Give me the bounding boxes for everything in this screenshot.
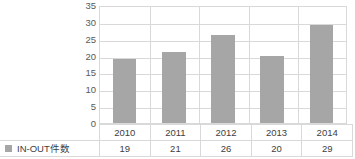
y-axis-tick-label: 25 bbox=[66, 35, 96, 45]
bar bbox=[113, 59, 137, 123]
legend: IN-OUT件数 bbox=[0, 141, 100, 157]
bar bbox=[310, 25, 334, 123]
bar bbox=[162, 52, 186, 123]
table-header-cell: 2010 bbox=[100, 125, 151, 141]
table-header-cell: 2011 bbox=[150, 125, 201, 141]
table-value-cell: 29 bbox=[302, 141, 353, 157]
y-axis-tick-label: 5 bbox=[66, 102, 96, 112]
table-value-cell: 20 bbox=[251, 141, 302, 157]
y-axis-tick-label: 35 bbox=[66, 1, 96, 11]
table-value-cell: 26 bbox=[201, 141, 252, 157]
y-axis-tick-label: 30 bbox=[66, 18, 96, 28]
table-header-cell: 2012 bbox=[201, 125, 252, 141]
table-header-cell: 2014 bbox=[302, 125, 353, 141]
bar-slot bbox=[198, 7, 247, 123]
y-axis-tick-label: 20 bbox=[66, 52, 96, 62]
y-axis: 05101520253035 bbox=[66, 6, 96, 124]
bar-slot bbox=[100, 7, 149, 123]
y-axis-tick-label: 10 bbox=[66, 86, 96, 96]
bar-slot bbox=[297, 7, 346, 123]
y-axis-tick-label: 15 bbox=[66, 69, 96, 79]
plot-area bbox=[99, 6, 347, 124]
table-row-values: IN-OUT件数1921262029 bbox=[0, 141, 352, 157]
table-row-header: 20102011201220132014 bbox=[0, 125, 352, 141]
legend-swatch-icon bbox=[5, 145, 12, 152]
bar-series bbox=[100, 7, 346, 123]
legend-label: IN-OUT件数 bbox=[17, 144, 70, 154]
bar-chart: 05101520253035 bbox=[0, 0, 355, 131]
bar bbox=[260, 56, 284, 123]
table-corner-blank bbox=[0, 125, 100, 141]
table-value-cell: 19 bbox=[100, 141, 151, 157]
bar-slot bbox=[248, 7, 297, 123]
table-value-cell: 21 bbox=[150, 141, 201, 157]
data-table: 20102011201220132014 IN-OUT件数1921262029 bbox=[0, 124, 353, 157]
chart-screenshot: 05101520253035 20102011201220132014 IN-O… bbox=[0, 0, 355, 159]
bar-slot bbox=[149, 7, 198, 123]
bar bbox=[211, 35, 235, 123]
table-header-cell: 2013 bbox=[251, 125, 302, 141]
